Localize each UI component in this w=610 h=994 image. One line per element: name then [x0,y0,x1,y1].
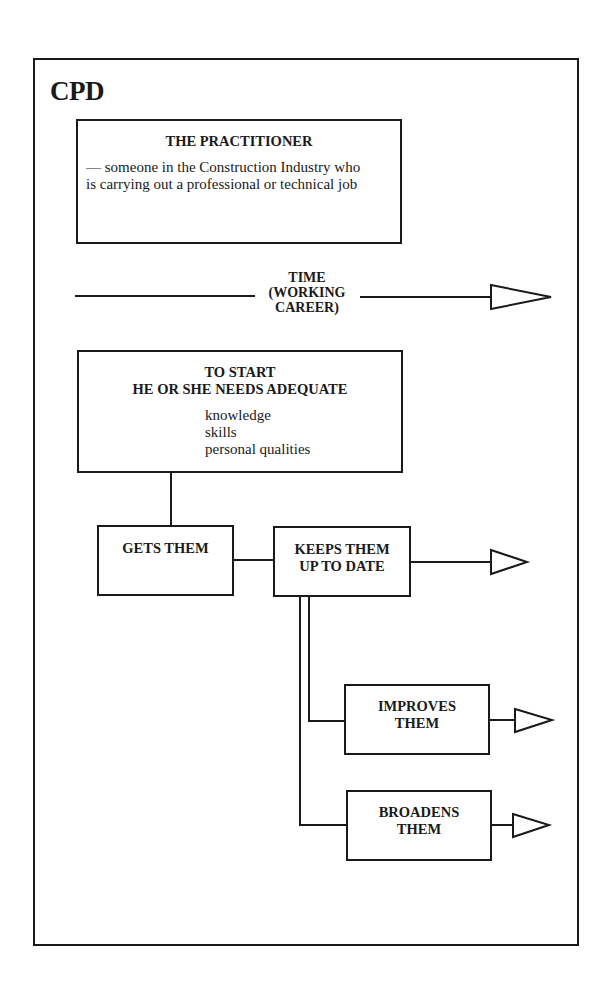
keeps-to-broadens-line [300,596,346,825]
broadens-them-label-line1: BROADENS [348,804,490,821]
gets-them-label: GETS THEM [99,540,232,557]
timeline-label-line2: (WORKING [256,285,358,300]
timeline-label: TIME (WORKING CAREER) [256,270,358,315]
timeline-label-line1: TIME [256,270,358,285]
keeps-them-label-line2: UP TO DATE [275,558,409,575]
broadens-them-label-line2: THEM [348,821,490,838]
start-item-knowledge: knowledge [205,407,401,424]
start-heading-line2: HE OR SHE NEEDS ADEQUATE [79,381,401,398]
gets-them-box: GETS THEM [97,525,234,596]
practitioner-box: THE PRACTITIONER — someone in the Constr… [76,119,402,244]
start-items: knowledge skills personal qualities [205,407,401,458]
improves-them-label-line2: THEM [346,715,488,732]
practitioner-heading: THE PRACTITIONER [92,133,386,150]
practitioner-description: — someone in the Construction Industry w… [86,159,366,193]
start-box: TO START HE OR SHE NEEDS ADEQUATE knowle… [77,350,403,473]
timeline-arrowhead-icon [491,285,551,309]
keeps-to-improves-line [309,596,344,721]
keeps-arrowhead-icon [491,550,527,574]
broadens-them-box: BROADENS THEM [346,790,492,861]
start-item-personal-qualities: personal qualities [205,441,401,458]
improves-them-label-line1: IMPROVES [346,698,488,715]
timeline-label-line3: CAREER) [256,300,358,315]
keeps-them-box: KEEPS THEM UP TO DATE [273,526,411,597]
keeps-them-label-line1: KEEPS THEM [275,541,409,558]
improves-them-box: IMPROVES THEM [344,684,490,755]
improves-arrowhead-icon [515,709,552,732]
broadens-arrowhead-icon [513,814,549,837]
start-heading-line1: TO START [79,364,401,381]
start-item-skills: skills [205,424,401,441]
